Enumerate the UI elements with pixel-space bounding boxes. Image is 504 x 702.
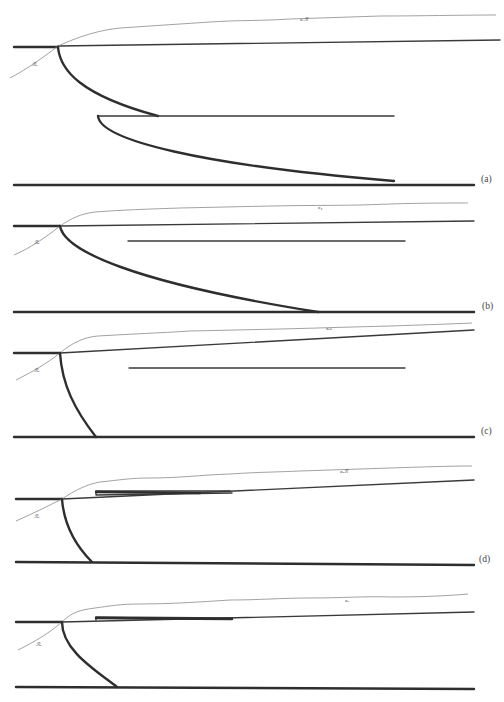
panel-label: (a) (481, 174, 492, 185)
inline-mark-top: ᴙ₂ (317, 205, 322, 210)
inline-mark-top: ᴙᵤ (344, 598, 349, 603)
wavy-profile-line (60, 203, 468, 226)
wedge-fill (96, 492, 200, 493)
left-wavy-line (16, 353, 60, 380)
sloped-surface-line (60, 330, 474, 353)
inline-mark-left: ℛᵤ (32, 62, 38, 67)
inline-mark-top: ᴙᵤℛ (339, 469, 349, 474)
inline-mark-left: ℛᵤ (34, 240, 40, 245)
inline-mark-top: ᴙᵤₙ (325, 326, 332, 331)
inline-mark-left: ℛᵤ (36, 642, 42, 647)
panel-e: ᴙᵤ ℛᵤ (16, 594, 474, 689)
curved-front-line (62, 622, 117, 687)
curved-front-line (60, 226, 318, 312)
panel-d: ᴙᵤℛ ℛᵤ (d) (16, 466, 490, 565)
wavy-profile-line (60, 323, 472, 353)
sloped-surface-line (60, 221, 474, 226)
sloped-surface-line (62, 480, 474, 499)
curved-front-line (62, 499, 92, 562)
curved-front-line (58, 47, 158, 116)
panel-label: (b) (482, 301, 493, 312)
wedge-fill (96, 618, 232, 619)
inline-mark-left: ℛᵤ (34, 514, 40, 519)
curved-front-line (60, 353, 96, 437)
inline-mark-left: ℛᵤ (34, 368, 40, 373)
panel-c: ᴙᵤₙ ℛᵤ (c) (14, 323, 492, 437)
stacked-schematic-figure: ᴙₓℛ ℛᵤ (a) ᴙ₂ ℛᵤ (b) ᴙᵤₙ ℛᵤ (c) (0, 0, 504, 702)
panel-b: ᴙ₂ ℛᵤ (b) (14, 203, 493, 312)
panel-a: ᴙₓℛ ℛᵤ (a) (10, 15, 500, 185)
bottom-line (16, 687, 474, 689)
panel-label: (d) (479, 554, 490, 565)
sloped-surface-line (58, 40, 500, 46)
inline-mark-top: ᴙₓℛ (299, 17, 309, 22)
lower-curved-line (98, 116, 394, 181)
bottom-line (16, 562, 474, 565)
panel-label: (c) (481, 426, 492, 437)
